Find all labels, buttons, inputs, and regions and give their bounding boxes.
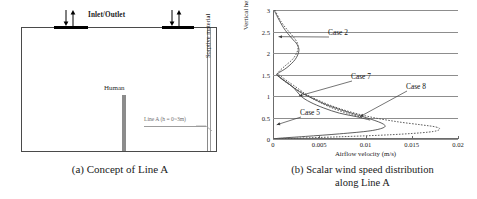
- x-tick-label: 0.015: [404, 141, 419, 148]
- x-tick-label: 0: [271, 141, 274, 148]
- x-tick-label: 0.005: [312, 141, 327, 148]
- y-tick-label: 3: [267, 7, 270, 14]
- inlet-outlet-label: Inlet/Outlet: [88, 11, 125, 19]
- y-tick-label: 2.5: [262, 28, 270, 35]
- panel-a-concept-diagram: Inlet/Outlet Human Sorptive material: [0, 0, 240, 199]
- y-tick-label: 0: [267, 136, 270, 143]
- panel-b-caption-line2: along Line A: [248, 176, 477, 189]
- x-tick: [458, 136, 459, 139]
- leader-line: [360, 91, 407, 117]
- y-axis-label: Vertical height(m): [242, 0, 249, 30]
- panel-b-caption-line1: (b) Scalar wind speed distribution: [248, 163, 477, 176]
- curve-case-8: [279, 75, 362, 118]
- annotation-case-8: Case 8: [406, 82, 426, 91]
- y-tick-label: 1.5: [262, 71, 270, 78]
- gridline: [273, 139, 458, 140]
- panel-a-caption: (a) Concept of Line A: [0, 163, 240, 175]
- two-panel-figure: Inlet/Outlet Human Sorptive material: [0, 0, 477, 199]
- annotation-case-5: Case 5: [300, 108, 320, 117]
- inlet-outlet-arrows-right: [168, 9, 184, 27]
- panel-b-chart: Vertical height(m) 00.511.522.53 00.0050…: [240, 0, 477, 199]
- plot-area: 00.511.522.53 00.0050.010.0150.02 Case 2…: [273, 10, 458, 139]
- human-figure: [122, 95, 126, 151]
- y-tick-label: 0.5: [262, 114, 270, 121]
- annotation-case-2: Case 2: [328, 28, 348, 37]
- sorptive-material-label: Sorptive material: [204, 0, 211, 58]
- leader-line: [299, 81, 352, 96]
- annotation-case-7: Case 7: [351, 72, 371, 81]
- x-tick-label: 0.02: [452, 141, 464, 148]
- vent-left: [54, 26, 88, 29]
- human-label: Human: [104, 84, 125, 92]
- x-tick-label: 0.01: [360, 141, 372, 148]
- inlet-outlet-arrows-left: [62, 9, 78, 27]
- leader-arrowhead: [277, 122, 281, 125]
- line-a-label: Line A (h = 0~3m): [144, 116, 186, 122]
- line-a-leader-icon: [196, 119, 214, 131]
- leader-line: [277, 117, 301, 125]
- x-axis-label: Airflow velocity (m/s): [273, 150, 458, 157]
- leader-arrowhead: [279, 35, 282, 38]
- y-tick-label: 1: [267, 93, 270, 100]
- y-tick-label: 2: [267, 50, 270, 57]
- panel-b-caption: (b) Scalar wind speed distribution along…: [248, 163, 477, 189]
- vent-right: [162, 26, 194, 29]
